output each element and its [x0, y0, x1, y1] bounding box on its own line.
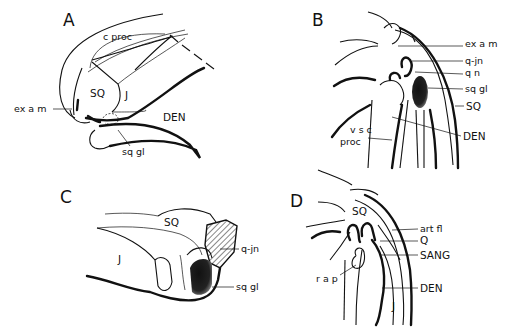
panel-a-head-outline — [60, 14, 163, 118]
label-c-j: J — [117, 253, 121, 265]
label-d-q: Q — [420, 234, 428, 246]
panel-d-outer-contour — [365, 195, 412, 325]
label-a-sq: SQ — [90, 87, 105, 99]
panel-c-q-jn-hatched — [205, 220, 237, 268]
panel-a-letter: A — [63, 10, 75, 30]
label-d-j: J — [391, 300, 395, 312]
panel-b-sq-gl-shape — [412, 76, 428, 108]
anatomical-figure: A c proc SQ J ex a m DEN sq gl — [0, 0, 509, 333]
label-a-den: DEN — [163, 111, 186, 123]
label-a-ex-a-m: ex a m — [14, 103, 46, 114]
label-d-sq: SQ — [352, 205, 367, 217]
panel-d: D SQ art fl Q SANG r a p DEN J — [290, 170, 450, 325]
label-a-sq-gl: sq gl — [122, 146, 145, 157]
panel-a-lower-jaw — [100, 124, 200, 158]
label-b-proc: proc — [340, 136, 361, 147]
label-d-art-fl: art fl — [420, 223, 442, 234]
panel-b-sq-contour — [400, 28, 458, 168]
label-b-vsc: v s c — [350, 124, 372, 135]
panel-a-dashed-line — [170, 35, 214, 69]
label-a-j: J — [124, 89, 128, 101]
label-b-ex-a-m: ex a m — [465, 38, 497, 49]
panel-c: C SQ J q-jn sq gl — [60, 187, 259, 300]
label-b-sq: SQ — [466, 100, 481, 112]
label-b-q-n: q n — [465, 67, 480, 78]
panel-b: B ex a m q-jn q n sq gl SQ DEN — [312, 10, 497, 168]
label-d-sang: SANG — [420, 249, 450, 261]
panel-c-sq-gl-shape — [190, 259, 212, 295]
label-c-sq-gl: sq gl — [236, 281, 259, 292]
panel-a: A c proc SQ J ex a m DEN sq gl — [14, 10, 214, 158]
panel-d-sang-strand — [372, 240, 384, 325]
panel-d-letter: D — [290, 191, 303, 211]
label-d-r-a-p: r a p — [316, 273, 338, 284]
panel-b-letter: B — [312, 10, 324, 30]
label-b-den: DEN — [463, 130, 486, 142]
label-a-c-proc: c proc — [103, 31, 132, 42]
label-b-q-jn: q-jn — [465, 55, 483, 66]
label-b-sq-gl: sq gl — [465, 83, 488, 94]
panel-c-letter: C — [60, 187, 72, 207]
panel-c-j-contour — [97, 228, 155, 260]
label-c-q-jn: q-jn — [241, 243, 259, 254]
label-c-sq: SQ — [164, 216, 179, 228]
label-d-den: DEN — [420, 282, 443, 294]
